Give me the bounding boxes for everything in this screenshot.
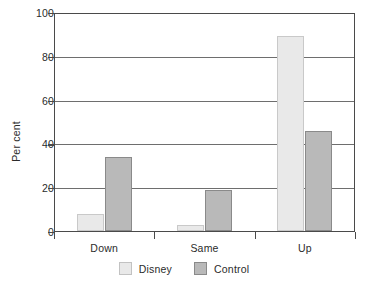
x-category-label-same: Same bbox=[190, 242, 218, 254]
plot-area bbox=[54, 13, 355, 232]
bar-control-up bbox=[305, 131, 332, 231]
gridline-60 bbox=[55, 101, 354, 102]
legend-swatch-disney-icon bbox=[119, 262, 132, 275]
x-tick-mark-1 bbox=[154, 232, 155, 239]
y-axis-ticks: 100 80 60 40 20 0 bbox=[0, 0, 54, 283]
legend-label-control: Control bbox=[214, 263, 249, 275]
bar-disney-same bbox=[177, 225, 204, 232]
x-tick-mark-2 bbox=[255, 232, 256, 239]
bar-disney-down bbox=[77, 214, 104, 231]
legend-item-control: Control bbox=[194, 262, 249, 275]
x-category-label-up: Up bbox=[298, 242, 312, 254]
bar-control-same bbox=[205, 190, 232, 231]
x-category-label-down: Down bbox=[90, 242, 118, 254]
chart-legend: Disney Control bbox=[0, 262, 368, 275]
legend-swatch-control-icon bbox=[194, 262, 207, 275]
legend-item-disney: Disney bbox=[119, 262, 172, 275]
legend-label-disney: Disney bbox=[139, 263, 172, 275]
bar-control-down bbox=[105, 157, 132, 231]
x-tick-mark-3 bbox=[355, 232, 356, 239]
gridline-80 bbox=[55, 57, 354, 58]
x-tick-mark-0 bbox=[54, 232, 55, 239]
bar-disney-up bbox=[277, 36, 304, 231]
bar-chart: Per cent 100 80 60 40 20 0 Down Same Up … bbox=[0, 0, 368, 283]
